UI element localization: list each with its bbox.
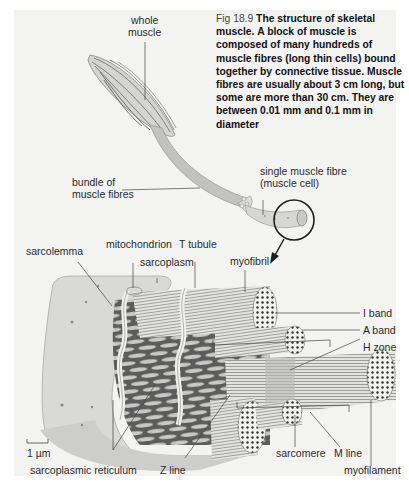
label-mitochondrion: mitochondrion	[106, 238, 172, 250]
label-bundle-line1: bundle of	[72, 176, 115, 188]
figure-description: A block of muscle is composed of many hu…	[216, 26, 404, 129]
label-t-tubule: T tubule	[179, 238, 217, 250]
label-m-line: M line	[334, 447, 362, 459]
muscle-fibre-cutaway-illustration	[40, 276, 396, 471]
label-sarcoplasm: sarcoplasm	[140, 256, 194, 268]
label-sarcolemma: sarcolemma	[26, 245, 83, 257]
label-single-fibre-line1: single muscle fibre	[260, 165, 347, 177]
label-myofibril: myofibril	[230, 255, 269, 267]
scale-bar	[27, 439, 48, 443]
label-i-band: I band	[363, 307, 392, 319]
label-scale-bar: 1 µm	[27, 447, 51, 459]
label-a-band: A band	[363, 324, 396, 336]
label-h-zone: H zone	[363, 341, 396, 353]
label-z-line: Z line	[160, 464, 186, 476]
figure-caption: Fig 18.9 The structure of skeletal muscl…	[216, 12, 406, 131]
label-sarcomere: sarcomere	[276, 447, 326, 459]
figure-number: Fig 18.9	[216, 13, 253, 24]
label-whole-muscle-line2: muscle	[128, 26, 161, 38]
label-bundle-line2: muscle fibres	[72, 188, 134, 200]
muscle-structure-diagram: Fig 18.9 The structure of skeletal muscl…	[0, 0, 409, 485]
label-whole-muscle-line1: whole	[131, 14, 158, 26]
label-sarcoplasmic-reticulum: sarcoplasmic reticulum	[30, 464, 137, 476]
label-single-fibre-line2: (muscle cell)	[260, 177, 319, 189]
whole-muscle-illustration	[88, 55, 176, 136]
label-myofilament: myofilament	[344, 464, 401, 476]
